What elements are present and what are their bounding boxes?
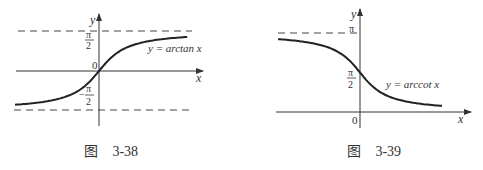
lower-tick-sign: − (79, 89, 85, 100)
caption-number: 3-39 (375, 144, 401, 159)
caption-prefix: 图 (347, 143, 361, 159)
lower-tick-den: 2 (86, 96, 91, 107)
function-label: y = arctan x (147, 42, 202, 54)
upper-tick-num: π (86, 29, 91, 40)
figure-3-39: y x 0 π π 2 y = arccot x (276, 7, 471, 128)
figure-3-38: y x 0 π 2 − π 2 y = arctan x (14, 13, 203, 126)
origin-label: 0 (352, 114, 358, 126)
caption-prefix: 图 (84, 143, 98, 159)
half-tick-den: 2 (348, 79, 353, 90)
function-label: y = arccot x (385, 78, 439, 90)
x-axis-label: x (457, 112, 464, 126)
y-axis-label: y (89, 13, 96, 27)
half-tick-num: π (348, 67, 353, 78)
lower-tick-num: π (86, 83, 91, 94)
figure-canvas: y x 0 π 2 − π 2 y = arctan x y x 0 π π 2… (0, 0, 483, 170)
caption-3-38: 图 3-38 (84, 140, 138, 160)
x-axis-label: x (195, 71, 202, 85)
y-axis-label: y (350, 7, 357, 21)
caption-3-39: 图 3-39 (347, 140, 401, 160)
caption-number: 3-38 (112, 144, 138, 159)
pi-tick: π (349, 23, 354, 34)
origin-label: 0 (92, 59, 98, 71)
upper-tick-den: 2 (86, 40, 91, 51)
